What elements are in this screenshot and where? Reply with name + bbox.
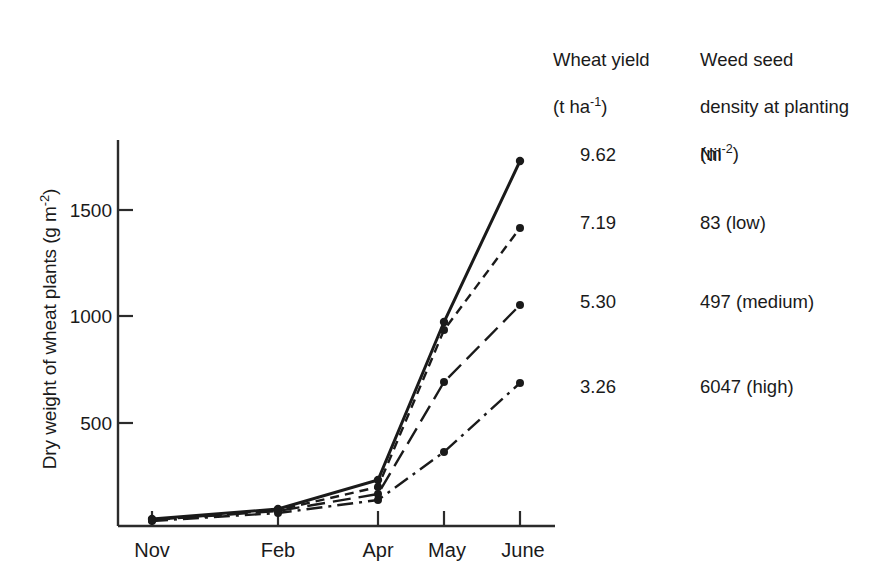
- column-header-weed-seed-density: Weed seed density at planting (m-2): [700, 24, 890, 190]
- axis-lines: [118, 140, 555, 526]
- x-tick-label-feb: Feb: [261, 540, 295, 560]
- table-row-yield-3: 3.26: [580, 378, 616, 397]
- series-nil: [148, 157, 524, 523]
- column-header-weed-seed-density-line1: Weed seed: [700, 48, 890, 72]
- column-header-weed-seed-density-line3: (m-2): [700, 142, 890, 166]
- x-tick-label-may: May: [428, 540, 466, 560]
- wheat-yield-unit-exponent: -1: [590, 95, 601, 109]
- table-row-density-0: Nil: [700, 146, 722, 165]
- wheat-yield-unit-suffix: ): [601, 96, 607, 117]
- column-header-wheat-yield-line2: (t ha-1): [553, 95, 693, 119]
- series-medium: [148, 301, 524, 524]
- y-axis-ticks: [118, 210, 133, 423]
- y-axis-title-suffix: ): [39, 189, 60, 195]
- table-row-density-3: 6047 (high): [700, 378, 794, 397]
- y-tick-label-1000: 1000: [42, 307, 112, 326]
- table-row-density-2: 497 (medium): [700, 293, 814, 312]
- table-row-yield-0: 9.62: [580, 146, 616, 165]
- column-header-weed-seed-density-line2: density at planting: [700, 95, 890, 119]
- figure-container: Dry weight of wheat plants (g m-2) 1500 …: [0, 0, 890, 583]
- table-row-yield-1: 7.19: [580, 214, 616, 233]
- weed-density-unit-suffix: ): [733, 143, 739, 164]
- table-row-density-1: 83 (low): [700, 214, 766, 233]
- series-high: [148, 379, 524, 525]
- table-row-yield-2: 5.30: [580, 293, 616, 312]
- wheat-yield-unit-prefix: (t ha: [553, 96, 590, 117]
- x-tick-label-apr: Apr: [362, 540, 393, 560]
- y-axis-title: Dry weight of wheat plants (g m-2): [39, 129, 61, 529]
- y-tick-label-1500: 1500: [42, 201, 112, 220]
- legend-table: Wheat yield (t ha-1) Weed seed density a…: [550, 24, 890, 424]
- weed-density-unit-exponent: -2: [722, 142, 733, 156]
- column-header-wheat-yield-line1: Wheat yield: [553, 48, 693, 72]
- x-tick-label-june: June: [501, 540, 544, 560]
- column-header-wheat-yield: Wheat yield (t ha-1): [553, 24, 693, 142]
- y-tick-label-500: 500: [42, 414, 112, 433]
- x-tick-label-nov: Nov: [134, 540, 170, 560]
